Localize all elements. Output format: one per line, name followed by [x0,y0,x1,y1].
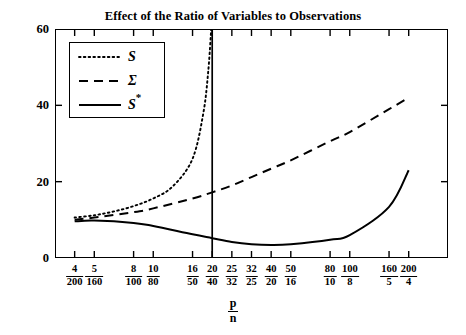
x-tick-denominator: 100 [125,276,143,288]
x-tick-denominator: 40 [206,276,219,288]
chart-legend: SΣS* [69,42,165,118]
x-tick-numerator: 32 [245,264,258,275]
legend-star-superscript: * [136,91,142,103]
x-tick-label: 1650 [186,264,199,287]
x-tick-denominator: 5 [380,276,398,288]
x-tick-denominator: 25 [245,276,258,288]
x-tick-label: 5160 [85,264,103,287]
x-tick-numerator: 40 [265,264,278,275]
x-tick-label: 1605 [380,264,398,287]
legend-item-label: S* [128,97,136,113]
legend-item: S [70,45,164,69]
x-tick-numerator: 200 [400,264,418,275]
x-tick-label: 4200 [66,264,84,287]
x-axis-title: p n [0,297,466,326]
x-tick-denominator: 50 [186,276,199,288]
legend-item-label: Σ [128,73,137,89]
x-axis-title-denominator: n [228,311,239,325]
x-tick-denominator: 200 [66,276,84,288]
x-tick-label: 8010 [324,264,337,287]
x-tick-denominator: 160 [85,276,103,288]
y-tick-label: 0 [43,251,49,266]
x-tick-numerator: 80 [324,264,337,275]
x-tick-label: 2532 [226,264,239,287]
legend-item-label: S [128,49,136,65]
x-tick-denominator: 10 [324,276,337,288]
legend-item: S* [70,93,164,117]
x-tick-denominator: 8 [341,276,359,288]
legend-item: Σ [70,69,164,93]
y-tick-label: 40 [37,98,50,113]
x-tick-numerator: 10 [147,264,160,275]
legend-line-sample [77,50,123,64]
x-tick-label: 5016 [285,264,298,287]
x-tick-numerator: 20 [206,264,219,275]
x-tick-numerator: 50 [285,264,298,275]
x-tick-denominator: 20 [265,276,278,288]
x-axis-title-numerator: p [228,297,239,310]
x-tick-label: 4020 [265,264,278,287]
x-tick-numerator: 160 [380,264,398,275]
x-tick-numerator: 25 [226,264,239,275]
x-tick-label: 1080 [147,264,160,287]
y-tick-label: 60 [37,22,50,37]
x-tick-numerator: 5 [85,264,103,275]
x-tick-denominator: 4 [400,276,418,288]
legend-line-sample [77,98,123,112]
x-tick-numerator: 4 [66,264,84,275]
plot-area: SΣS* 0204060 [55,29,448,258]
x-tick-label: 8100 [125,264,143,287]
x-tick-label: 2004 [400,264,418,287]
x-tick-label: 3225 [245,264,258,287]
x-tick-label: 2040 [206,264,219,287]
x-tick-numerator: 100 [341,264,359,275]
y-tick-label: 20 [37,174,50,189]
x-tick-numerator: 8 [125,264,143,275]
legend-line-sample [77,74,123,88]
chart-title: Effect of the Ratio of Variables to Obse… [0,9,466,24]
chart-figure: Effect of the Ratio of Variables to Obse… [0,0,466,335]
x-tick-denominator: 32 [226,276,239,288]
x-tick-label: 1008 [341,264,359,287]
x-tick-denominator: 80 [147,276,160,288]
x-tick-numerator: 16 [186,264,199,275]
x-tick-denominator: 16 [285,276,298,288]
x-axis-title-fraction: p n [228,297,239,324]
